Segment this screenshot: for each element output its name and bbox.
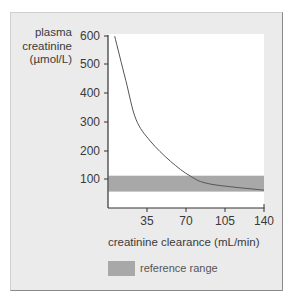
y-tick-600: 600 <box>80 29 100 43</box>
x-axis-title: creatinine clearance (mL/min) <box>108 236 259 248</box>
x-tick-105: 105 <box>215 214 235 228</box>
y-tick-500: 500 <box>80 57 100 71</box>
y-tick-300: 300 <box>80 115 100 129</box>
y-tick-200: 200 <box>80 144 100 158</box>
y-tick-100: 100 <box>80 172 100 186</box>
plot-svg: 600 500 400 300 200 100 35 70 105 140 <box>0 0 293 298</box>
reference-range-band <box>109 176 265 192</box>
x-tick-70: 70 <box>179 214 193 228</box>
y-tick-400: 400 <box>80 86 100 100</box>
x-tick-35: 35 <box>140 214 154 228</box>
legend-swatch-reference-range <box>108 261 135 276</box>
x-tick-140: 140 <box>254 214 274 228</box>
legend-label-reference-range: reference range <box>140 262 218 274</box>
